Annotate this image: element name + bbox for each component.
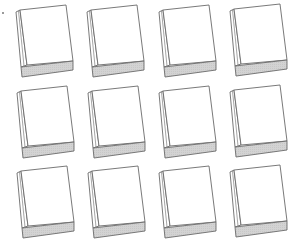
book-icon — [228, 83, 292, 159]
book-icon — [15, 164, 79, 240]
book-icon — [228, 163, 292, 239]
book-icon — [157, 84, 221, 160]
book-icon — [15, 84, 79, 160]
book-icon — [14, 3, 78, 79]
book-icon — [157, 3, 221, 79]
book-icon — [85, 3, 149, 79]
book-icon — [228, 2, 292, 78]
book-icon — [157, 164, 221, 240]
book-grid — [0, 0, 301, 250]
book-icon — [86, 164, 150, 240]
book-icon — [86, 84, 150, 160]
